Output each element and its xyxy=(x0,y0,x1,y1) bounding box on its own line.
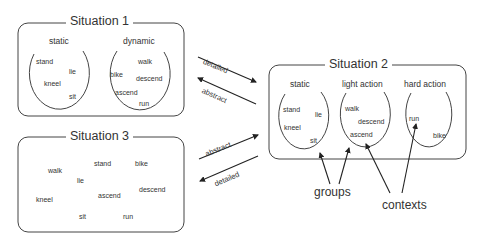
s2-item: sit xyxy=(310,137,317,145)
s3-item: bike xyxy=(135,160,148,168)
s1-item: stand xyxy=(36,58,53,66)
s1-item: lie xyxy=(69,68,76,76)
s2-item: walk xyxy=(345,105,359,113)
s2-item: ascend xyxy=(350,131,373,139)
s2-item: lie xyxy=(315,111,322,119)
s1-item: bike xyxy=(110,71,123,79)
s3-item: descend xyxy=(139,186,165,194)
s2-item: kneel xyxy=(284,124,301,132)
s2-group-static-label: static xyxy=(290,79,310,89)
s3-item: lie xyxy=(77,177,84,185)
contexts-annotation: contexts xyxy=(382,199,427,212)
s1-item: kneel xyxy=(44,80,61,88)
s2-static-group-arc xyxy=(279,92,329,149)
s1-item: descend xyxy=(136,75,162,83)
s2-item: descend xyxy=(358,118,384,126)
situation1-title: Situation 1 xyxy=(66,15,133,28)
s2-item: run xyxy=(409,115,419,123)
s3-item: kneel xyxy=(36,196,53,204)
situation3-title: Situation 3 xyxy=(66,130,133,143)
s2-item: bike xyxy=(433,132,446,140)
s3-item: run xyxy=(123,213,133,221)
s1-item: run xyxy=(139,100,149,108)
s2-group-hard-label: hard action xyxy=(404,79,446,89)
s3-item: ascend xyxy=(98,192,121,200)
s3-item: stand xyxy=(94,160,111,168)
s1-item: walk xyxy=(138,58,152,66)
s3-item: sit xyxy=(79,213,86,221)
contexts-pointer-1 xyxy=(366,144,390,193)
s2-item: stand xyxy=(283,106,300,114)
s1-group-dynamic-label: dynamic xyxy=(123,36,155,46)
s2-group-light-label: light action xyxy=(342,79,383,89)
groups-annotation: groups xyxy=(314,186,351,199)
s1-item: ascend xyxy=(115,89,138,97)
s1-group-static-label: static xyxy=(49,36,69,46)
situation3-box xyxy=(18,137,184,232)
s1-item: sit xyxy=(69,93,76,101)
s3-item: walk xyxy=(48,167,62,175)
situation2-title: Situation 2 xyxy=(325,58,392,71)
groups-pointer-1 xyxy=(320,153,330,184)
groups-pointer-2 xyxy=(339,148,349,184)
